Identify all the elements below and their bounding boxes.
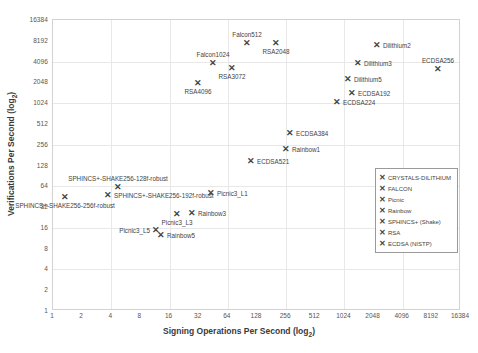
y-axis-tick-label: 512 (37, 119, 48, 126)
legend-item[interactable]: ✕SPHINCS+ (Shake) (376, 216, 457, 227)
y-axis-tick-label: 64 (41, 182, 48, 189)
x-axis-tick-label: 8 (138, 312, 142, 319)
legend-marker-icon: ✕ (379, 185, 388, 193)
y-axis-tick-label: 1024 (33, 99, 48, 106)
gridline-vertical (111, 20, 112, 309)
data-point-marker-icon: ✕ (434, 65, 442, 73)
data-point-marker-icon: ✕ (272, 39, 280, 47)
scatter-chart: 1638481924096204810245122561286432168421… (0, 0, 478, 353)
x-axis-tick-label: 128 (251, 312, 262, 319)
data-point-label: Dilithium2 (383, 42, 411, 49)
gridline-horizontal (53, 269, 459, 270)
legend-item[interactable]: ✕Picnic (376, 194, 457, 205)
data-point-label: Falcon512 (232, 31, 261, 38)
y-axis-tick-label: 2048 (33, 78, 48, 85)
data-point-marker-icon: ✕ (344, 75, 352, 83)
gridline-vertical (344, 20, 345, 309)
x-axis-title: Signing Operations Per Second (log2) (0, 326, 478, 338)
y-axis-title-sub: 2 (11, 95, 18, 99)
legend-marker-icon: ✕ (379, 174, 388, 182)
x-axis-tick-label: 2 (79, 312, 83, 319)
data-point-label: Dilithium3 (364, 60, 392, 67)
y-axis-tick-label: 8192 (33, 36, 48, 43)
x-axis-title-text: Signing Operations Per Second (log (163, 326, 308, 336)
y-axis-tick-label: 8 (44, 244, 48, 251)
data-point-label: ECDSA256 (422, 57, 454, 64)
y-axis-tick-label: 128 (37, 161, 48, 168)
x-axis-tick-label: 4096 (394, 312, 408, 319)
x-axis-tick-label: 1 (50, 312, 54, 319)
gridline-horizontal (53, 62, 459, 63)
y-axis-title: Verifications Per Second (log2) (6, 79, 18, 229)
gridline-vertical (170, 20, 171, 309)
y-axis-tick-label: 2 (44, 286, 48, 293)
plot-area: ✕Falcon512✕RSA2048✕Falcon1024✕RSA3072✕RS… (52, 19, 460, 310)
x-axis-tick-label: 64 (223, 312, 230, 319)
legend: ✕CRYSTALS-DILITHIUM✕FALCON✕Picnic✕Rainbo… (375, 168, 458, 253)
data-point-marker-icon: ✕ (243, 39, 251, 47)
data-point-label: ECDSA521 (257, 158, 289, 165)
legend-item[interactable]: ✕CRYSTALS-DILITHIUM (376, 172, 457, 183)
data-point-label: RSA3072 (219, 73, 246, 80)
data-point-label: RSA2048 (263, 48, 290, 55)
data-point-marker-icon: ✕ (188, 209, 196, 217)
data-point-marker-icon: ✕ (228, 64, 236, 72)
y-axis-tick-label: 16384 (29, 16, 48, 23)
y-axis-tick-label: 4 (44, 265, 48, 272)
y-axis-title-tail: ) (6, 92, 16, 95)
data-point-marker-icon: ✕ (348, 89, 356, 97)
legend-marker-icon: ✕ (379, 240, 388, 248)
data-point-marker-icon: ✕ (354, 59, 362, 67)
legend-item-label: ECDSA (NISTP) (388, 241, 432, 247)
data-point-marker-icon: ✕ (282, 145, 290, 153)
x-axis-title-tail: ) (312, 326, 315, 336)
x-axis-tick-label: 4 (108, 312, 112, 319)
x-axis-tick-label: 256 (280, 312, 291, 319)
x-axis-tick-label: 1024 (336, 312, 350, 319)
data-point-label: SPHINCS+-SHAKE256-128f-robust (68, 175, 168, 182)
y-axis-title-text: Verifications Per Second (log (6, 98, 16, 216)
data-point-label: ECDSA192 (358, 90, 390, 97)
data-point-label: Dilithium5 (354, 76, 382, 83)
legend-item-label: SPHINCS+ (Shake) (388, 219, 441, 225)
x-axis-tick-label: 16384 (451, 312, 469, 319)
legend-item-label: CRYSTALS-DILITHIUM (388, 175, 451, 181)
x-axis-tick-label: 32 (194, 312, 201, 319)
data-point-label: Rainbow3 (198, 210, 226, 217)
y-axis-tick-label: 16 (41, 223, 48, 230)
data-point-label: SPHINCS+-SHAKE256-192f-robust (114, 192, 214, 199)
legend-item[interactable]: ✕Rainbow (376, 205, 457, 216)
x-axis-ticks: 1248163264128256512102420484096819216384 (52, 311, 460, 325)
data-point-marker-icon: ✕ (114, 183, 122, 191)
data-point-marker-icon: ✕ (286, 129, 294, 137)
data-point-marker-icon: ✕ (61, 193, 69, 201)
gridline-horizontal (53, 145, 459, 146)
data-point-label: SPHINCS+-SHAKE256-256f-robust (15, 202, 115, 209)
data-point-label: Falcon1024 (197, 51, 230, 58)
legend-item[interactable]: ✕FALCON (376, 183, 457, 194)
data-point-label: Rainbow1 (292, 146, 320, 153)
data-point-label: Picnic3_L1 (217, 190, 248, 197)
legend-marker-icon: ✕ (379, 218, 388, 226)
data-point-label: ECDSA224 (343, 99, 375, 106)
data-point-marker-icon: ✕ (247, 157, 255, 165)
data-point-marker-icon: ✕ (209, 59, 217, 67)
legend-item[interactable]: ✕ECDSA (NISTP) (376, 238, 457, 249)
gridline-horizontal (53, 103, 459, 104)
data-point-label: Rainbow5 (167, 232, 195, 239)
data-point-label: Picnic3_L3 (162, 219, 193, 226)
data-point-label: ECDSA384 (296, 130, 328, 137)
data-point-marker-icon: ✕ (157, 231, 165, 239)
gridline-vertical (286, 20, 287, 309)
x-axis-tick-label: 2048 (365, 312, 379, 319)
y-axis-tick-label: 4096 (33, 57, 48, 64)
data-point-marker-icon: ✕ (104, 191, 112, 199)
legend-item-label: FALCON (388, 186, 412, 192)
legend-item[interactable]: ✕RSA (376, 227, 457, 238)
legend-marker-icon: ✕ (379, 229, 388, 237)
y-axis-tick-label: 1 (44, 307, 48, 314)
data-point-marker-icon: ✕ (173, 210, 181, 218)
data-point-marker-icon: ✕ (207, 189, 215, 197)
legend-marker-icon: ✕ (379, 207, 388, 215)
x-axis-tick-label: 8192 (424, 312, 438, 319)
